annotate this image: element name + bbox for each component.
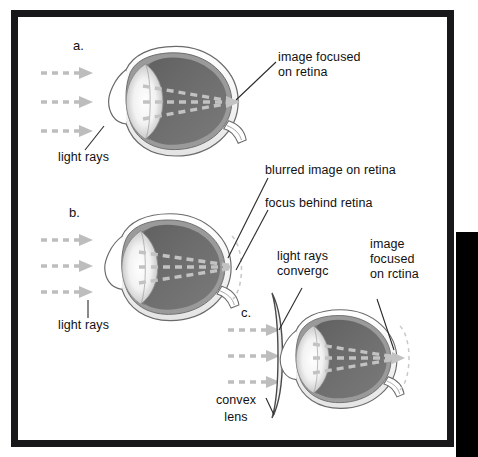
panel-a-incoming-rays xyxy=(41,67,93,137)
leader-c-converge xyxy=(279,288,302,330)
label-c-image-focused-line2: focused xyxy=(370,252,414,267)
label-c-image-focused-line1: image xyxy=(370,237,405,252)
leader-b-blurred-image xyxy=(228,178,268,258)
panel-c-focus-arrowhead xyxy=(392,352,405,364)
panel-marker-c: c. xyxy=(241,305,251,320)
leader-a-image-focused xyxy=(236,62,276,100)
label-c-convex-line2: lens xyxy=(205,410,267,425)
leader-c-convex-lens xyxy=(266,398,274,415)
label-a-light-rays: light rays xyxy=(58,150,109,165)
label-c-converge-line2: convergc xyxy=(277,264,329,279)
label-c-converge-line1: light rays xyxy=(277,249,328,264)
panel-marker-a: a. xyxy=(73,38,84,53)
label-b-light-rays: light rays xyxy=(58,318,109,333)
leader-b-focus-behind xyxy=(236,210,268,270)
figure-root: a. b. c. image focused on retina light r… xyxy=(0,0,478,457)
panel-marker-b: b. xyxy=(69,205,80,220)
label-b-blurred-image: blurred image on retina xyxy=(265,163,396,178)
panel-b-incoming-rays xyxy=(41,234,93,298)
label-c-convex-line1: convex xyxy=(205,393,267,408)
label-a-image-focused-line1: image focused xyxy=(278,50,361,65)
label-c-image-focused-line3: on rctina xyxy=(370,267,419,282)
panel-c-incoming-rays xyxy=(228,324,280,388)
panel-a-eye-diagram xyxy=(41,46,276,156)
label-a-image-focused-line2: on retina xyxy=(278,65,328,80)
label-b-focus-behind: focus behind retina xyxy=(265,196,373,211)
panel-b-eye-diagram xyxy=(41,178,268,321)
diagram-canvas xyxy=(0,0,478,457)
